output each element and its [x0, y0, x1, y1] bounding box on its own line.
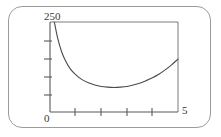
y-axis-max-label: 250 — [44, 11, 61, 22]
figure-root: 250 0 5 — [0, 0, 221, 137]
data-curve-line — [54, 22, 178, 88]
x-axis-min-label: 0 — [44, 113, 50, 124]
x-axis-max-label: 5 — [182, 105, 188, 116]
chart-plot-area — [0, 0, 221, 137]
